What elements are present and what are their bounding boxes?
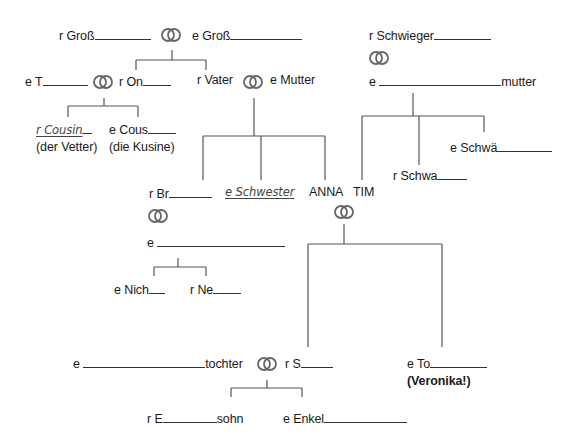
grandmother-blank[interactable]: [230, 27, 302, 40]
daughter-text: e To: [407, 357, 430, 371]
cousin-m-blank[interactable]: [82, 121, 92, 134]
brother-text: r Br: [149, 187, 169, 201]
cousin-f-text: e Cous: [109, 123, 148, 137]
wedding-rings-icon: [147, 208, 169, 224]
niece-blank[interactable]: [149, 281, 165, 294]
grandmother-text: e Groß: [192, 29, 230, 43]
nephew-label: r Ne: [190, 281, 241, 298]
cousin-f-blank[interactable]: [148, 121, 176, 134]
brother-in-law-blank[interactable]: [437, 167, 467, 180]
son-label: r S: [285, 355, 333, 372]
brother-label: r Br: [149, 185, 212, 202]
brother-in-law-text: r Schwa: [393, 169, 437, 183]
mother-text: e Mutter: [270, 73, 315, 87]
nephew-blank[interactable]: [213, 281, 241, 294]
wedding-rings-icon: [256, 356, 278, 372]
nephew-text: r Ne: [190, 283, 213, 297]
sister-in-law-blank[interactable]: [497, 139, 552, 152]
father-in-law-text: r Schwieger: [369, 29, 434, 43]
sister-in-law-text: e Schwä: [450, 141, 497, 155]
granddaughter-text: e Enkel: [283, 412, 324, 426]
brother-wife-label: e: [147, 234, 285, 251]
brother-wife-blank[interactable]: [157, 234, 285, 247]
tree-connectors: [0, 0, 577, 443]
mother-label: e Mutter: [270, 73, 315, 88]
mother-in-law-prefix: e: [369, 75, 376, 89]
wedding-rings-icon: [242, 74, 264, 90]
aunt-blank[interactable]: [43, 73, 88, 86]
sister-answer: e Schwester: [225, 185, 294, 199]
cousin-m-alt: (der Vetter): [36, 140, 97, 155]
uncle-blank[interactable]: [143, 73, 171, 86]
mother-in-law-label: e mutter: [369, 73, 536, 90]
cousin-m-answer: r Cousin: [36, 123, 82, 137]
uncle-label: r On: [119, 73, 171, 90]
son-text: r S: [285, 357, 301, 371]
grandfather-label: r Groß: [59, 27, 151, 44]
grandson-blank[interactable]: [163, 410, 217, 423]
father-in-law-blank[interactable]: [434, 27, 491, 40]
sister-in-law-label: e Schwä: [450, 139, 552, 156]
grandson-label: r Esohn: [147, 410, 243, 427]
niece-text: e Nich: [114, 283, 149, 297]
cousin-f-label: e Cous: [109, 121, 176, 138]
father-text: r Vater: [197, 73, 233, 87]
brother-in-law-label: r Schwa: [393, 167, 467, 184]
uncle-text: r On: [119, 75, 143, 89]
anna-label: ANNA: [309, 185, 343, 200]
wedding-rings-icon: [333, 204, 355, 220]
granddaughter-label: e Enkel: [283, 410, 407, 427]
aunt-text: e T: [25, 75, 43, 89]
niece-label: e Nich: [114, 281, 165, 298]
daughter-label: e To: [407, 355, 487, 372]
aunt-label: e T: [25, 73, 88, 90]
cousin-m-label: r Cousin: [36, 121, 92, 138]
father-label: r Vater: [197, 73, 233, 88]
brother-wife-prefix: e: [147, 236, 154, 250]
wedding-rings-icon: [160, 27, 182, 43]
daughter-note: (Veronika!): [407, 374, 471, 389]
daughter-blank[interactable]: [430, 355, 487, 368]
grandson-prefix: r E: [147, 412, 163, 426]
grandson-suffix: sohn: [217, 412, 244, 426]
father-in-law-label: r Schwieger: [369, 27, 491, 44]
grandfather-blank[interactable]: [95, 27, 151, 40]
daughter-in-law-suffix: tochter: [205, 357, 243, 371]
daughter-in-law-label: e tochter: [73, 355, 243, 372]
daughter-in-law-prefix: e: [73, 357, 80, 371]
daughter-in-law-blank[interactable]: [83, 355, 205, 368]
tim-label: TIM: [353, 185, 374, 200]
wedding-rings-icon: [92, 74, 114, 90]
mother-in-law-suffix: mutter: [501, 75, 536, 89]
granddaughter-blank[interactable]: [324, 410, 407, 423]
wedding-rings-icon: [368, 50, 390, 66]
cousin-f-alt: (die Kusine): [109, 140, 175, 155]
grandfather-text: r Groß: [59, 29, 95, 43]
brother-blank[interactable]: [169, 185, 212, 198]
sister-label: e Schwester: [225, 185, 294, 200]
mother-in-law-blank[interactable]: [379, 73, 501, 86]
son-blank[interactable]: [301, 355, 333, 368]
grandmother-label: e Groß: [192, 27, 302, 44]
